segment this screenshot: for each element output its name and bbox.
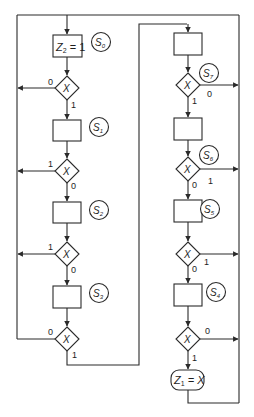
svg-text:X: X	[183, 164, 191, 175]
svg-text:1: 1	[72, 350, 77, 360]
svg-text:1: 1	[71, 100, 76, 110]
state-s1: S1	[53, 118, 109, 142]
svg-text:0: 0	[48, 77, 53, 87]
svg-text:X: X	[183, 80, 191, 91]
svg-text:Z2 = 1: Z2 = 1	[55, 41, 85, 54]
state-s0: Z2 = 1 S0	[53, 33, 111, 58]
decision-3-right: X 1 0	[176, 242, 238, 274]
state-s6: S6	[174, 118, 219, 165]
svg-text:X: X	[62, 249, 70, 260]
svg-text:X: X	[62, 166, 70, 177]
svg-text:X: X	[62, 83, 70, 94]
left-column: Z2 = 1 S0 X 0 1 S1 X 1 0	[17, 24, 188, 365]
svg-text:0: 0	[71, 181, 76, 191]
svg-text:X: X	[183, 249, 191, 260]
svg-text:0: 0	[48, 327, 53, 337]
svg-text:Z1 = X: Z1 = X	[173, 374, 205, 387]
svg-text:0: 0	[71, 265, 76, 275]
svg-text:0: 0	[192, 180, 197, 190]
right-column: S7 X 0 1 S6 X 1 0	[171, 33, 239, 403]
decision-4-right: X 0 1	[176, 326, 238, 363]
svg-text:1: 1	[208, 176, 213, 186]
transfer-path	[67, 24, 187, 365]
svg-text:X: X	[62, 334, 70, 345]
svg-text:1: 1	[48, 159, 53, 169]
state-s3: S3	[53, 284, 109, 309]
decision-1-left: X 0 1	[18, 76, 79, 110]
svg-text:1: 1	[204, 257, 209, 267]
svg-text:1: 1	[192, 96, 197, 106]
svg-text:1: 1	[192, 353, 197, 363]
asm-chart: Z2 = 1 S0 X 0 1 S1 X 1 0	[0, 0, 254, 417]
conditional-output-z1: Z1 = X	[171, 370, 205, 390]
state-s2: S2	[53, 201, 109, 224]
decision-4-left: X 0 1	[17, 327, 79, 360]
state-s7: S7	[174, 33, 219, 83]
svg-text:X: X	[183, 334, 191, 345]
state-s4: S4	[174, 283, 226, 307]
svg-text:0: 0	[207, 89, 212, 99]
state-s5: S5	[174, 200, 220, 223]
svg-text:1: 1	[48, 242, 53, 252]
decision-3-left: X 1 0	[18, 242, 79, 275]
decision-2-left: X 1 0	[18, 159, 79, 191]
svg-text:0: 0	[192, 264, 197, 274]
svg-text:0: 0	[205, 326, 210, 336]
